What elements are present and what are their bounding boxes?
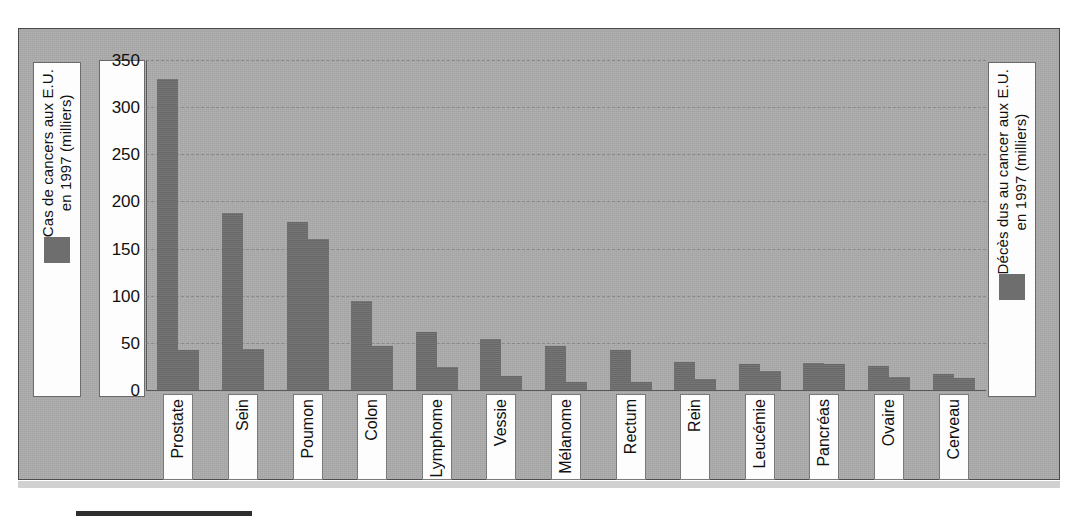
x-axis-category-label: Rein [686, 399, 704, 432]
bar-deaths [760, 371, 781, 390]
x-axis-category-m-lanome: Mélanome [551, 394, 581, 480]
chart-page: Cas de cancers aux E.U. en 1997 (millier… [0, 0, 1081, 526]
gridline [146, 154, 986, 155]
y-axis-tick: 300 [112, 98, 140, 118]
x-axis-category-vessie: Vessie [486, 394, 516, 480]
x-axis-category-label: Poumon [299, 399, 317, 459]
legend-left: Cas de cancers aux E.U. en 1997 (millier… [33, 62, 81, 397]
bar-cases [610, 350, 631, 390]
bar-group [739, 364, 781, 390]
bar-cases [222, 213, 243, 390]
bar-group [933, 374, 975, 390]
x-axis-line [146, 390, 986, 391]
x-axis-category-lymphome: Lymphome [422, 394, 452, 480]
y-axis-tick: 0 [131, 381, 140, 401]
legend-right-swatch [999, 274, 1025, 300]
y-axis-tick: 250 [112, 145, 140, 165]
x-axis-category-label: Ovaire [880, 399, 898, 446]
bar-deaths [178, 350, 199, 390]
x-axis-category-label: Lymphome [428, 399, 446, 478]
legend-right: Décès dus au cancer aux E.U. en 1997 (mi… [988, 62, 1036, 397]
bar-group [545, 346, 587, 390]
gridline [146, 296, 986, 297]
bar-group [222, 213, 264, 390]
x-axis-category-label: Prostate [169, 399, 187, 459]
y-axis-tick: 200 [112, 192, 140, 212]
bar-group [287, 222, 329, 390]
bar-deaths [695, 379, 716, 390]
bar-cases [803, 363, 824, 390]
bar-deaths [631, 382, 652, 390]
x-axis-category-ovaire: Ovaire [874, 394, 904, 480]
bar-cases [157, 79, 178, 390]
bar-group [480, 339, 522, 390]
legend-left-label: Cas de cancers aux E.U. en 1997 (millier… [39, 69, 74, 237]
x-axis-category-label: Leucémie [751, 399, 769, 468]
bar-cases [933, 374, 954, 390]
y-axis-tick: 150 [112, 240, 140, 260]
x-axis-category-label: Colon [363, 399, 381, 441]
gridline [146, 249, 986, 250]
bar-cases [674, 362, 695, 390]
y-axis-tick: 100 [112, 287, 140, 307]
x-axis-category-rectum: Rectum [616, 394, 646, 480]
bar-deaths [954, 378, 975, 390]
bar-deaths [243, 349, 264, 390]
gridline [146, 60, 986, 61]
bar-cases [416, 332, 437, 390]
bar-deaths [437, 367, 458, 390]
y-axis-line [146, 60, 147, 390]
bar-deaths [501, 376, 522, 390]
bar-cases [545, 346, 566, 390]
bar-deaths [889, 377, 910, 390]
x-axis-category-poumon: Poumon [293, 394, 323, 480]
bar-group [351, 301, 393, 390]
x-axis-category-rein: Rein [680, 394, 710, 480]
legend-left-swatch [44, 237, 70, 263]
bar-cases [351, 301, 372, 390]
bar-cases [739, 364, 760, 390]
x-axis-category-leuc-mie: Leucémie [745, 394, 775, 480]
bar-cases [480, 339, 501, 390]
bar-deaths [824, 364, 845, 390]
y-axis-strip: 350300250200150100500 [99, 60, 145, 397]
legend-right-label: Décès dus au cancer aux E.U. en 1997 (mi… [994, 69, 1029, 274]
x-axis-category-label: Mélanome [557, 399, 575, 474]
bar-group [803, 363, 845, 390]
x-axis-category-label: Pancréas [815, 399, 833, 467]
x-axis-category-colon: Colon [357, 394, 387, 480]
x-axis-category-pancr-as: Pancréas [809, 394, 839, 480]
bar-group [157, 79, 199, 390]
x-axis-category-prostate: Prostate [163, 394, 193, 480]
x-axis-category-cerveau: Cerveau [939, 394, 969, 480]
bar-deaths [372, 346, 393, 390]
bar-group [610, 350, 652, 390]
y-axis-tick: 50 [121, 334, 140, 354]
y-axis-tick: 350 [112, 51, 140, 71]
bar-cases [287, 222, 308, 390]
x-axis-category-sein: Sein [228, 394, 258, 480]
x-axis-category-label: Rectum [622, 399, 640, 454]
frame-bottom-shadow [18, 481, 1060, 488]
x-axis-category-label: Sein [234, 399, 252, 431]
gridline [146, 107, 986, 108]
bar-group [674, 362, 716, 390]
bar-deaths [308, 239, 329, 390]
x-axis-category-label: Cerveau [945, 399, 963, 459]
bar-deaths [566, 382, 587, 390]
bar-group [868, 366, 910, 391]
gridline [146, 343, 986, 344]
plot-area [146, 60, 986, 390]
gridline [146, 201, 986, 202]
x-axis-category-label: Vessie [492, 399, 510, 446]
caption-rule [76, 511, 252, 516]
bar-group [416, 332, 458, 390]
bar-cases [868, 366, 889, 391]
